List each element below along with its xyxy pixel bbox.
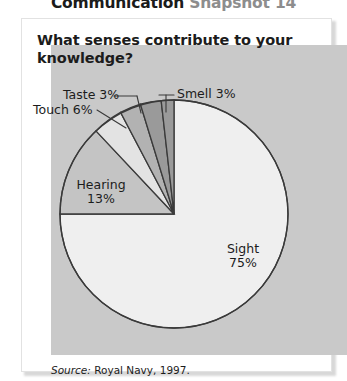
pie-label-sight: Sight 75% [218, 242, 268, 270]
pie-label-sight-value: 75% [218, 256, 268, 270]
page-header: Communication Snapshot 14 [0, 0, 347, 15]
page-header-strong: Communication [51, 0, 184, 12]
figure-card: What senses contribute to your knowledge… [21, 18, 332, 372]
chart-title: What senses contribute to your knowledge… [37, 31, 297, 67]
source-prefix: Source: [51, 364, 91, 376]
pie-label-hearing-value: 13% [70, 192, 132, 206]
pie-label-hearing: Hearing 13% [70, 178, 132, 206]
source-note: Source: Royal Navy, 1997. [51, 364, 190, 376]
pie-label-smell: Smell 3% [177, 87, 236, 101]
pie-label-sight-name: Sight [218, 242, 268, 256]
pie-label-touch: Touch 6% [33, 103, 93, 117]
pie-label-taste: Taste 3% [63, 88, 119, 102]
pie-label-hearing-name: Hearing [70, 178, 132, 192]
page-header-soft: Snapshot 14 [189, 0, 296, 12]
source-text: Royal Navy, 1997. [91, 364, 190, 376]
